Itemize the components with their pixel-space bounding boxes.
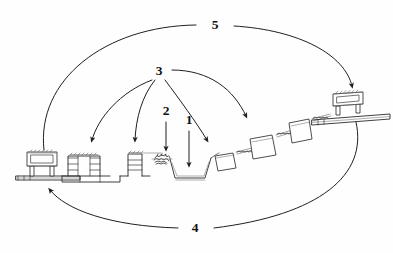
label-3: 3	[156, 63, 163, 78]
figure-root: 1 2 3 4 5	[0, 0, 393, 253]
canvas-background	[0, 0, 393, 253]
label-1: 1	[186, 112, 193, 127]
label-2: 2	[163, 103, 170, 118]
diagram-canvas: 1 2 3 4 5	[0, 0, 393, 253]
label-5: 5	[212, 17, 219, 32]
label-4: 4	[192, 220, 199, 235]
